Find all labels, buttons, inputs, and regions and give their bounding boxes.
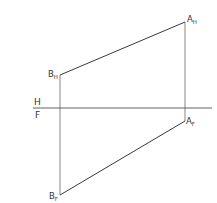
point-label-b-f: BF [49,191,58,202]
projection-diagram: H F AH BH AF BF [0,0,217,203]
line-ab-frontal-view [60,121,185,195]
point-label-a-h: AH [187,14,197,25]
point-label-b-h: BH [48,69,58,80]
fold-label-f: F [35,110,40,120]
line-ab-horizontal-view [60,22,185,75]
point-label-a-f: AF [186,116,195,127]
fold-label-h: H [34,97,41,107]
